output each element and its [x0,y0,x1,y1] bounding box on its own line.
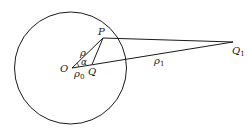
label-rho0-sub: 0 [80,73,84,81]
label-q1: Q1 [232,45,245,58]
label-q: Q [88,66,96,77]
label-alpha: α [81,57,87,67]
circle [15,12,127,124]
label-p: P [97,26,105,37]
label-q1-main: Q [232,45,240,56]
segment-p-q1 [103,38,233,42]
label-rho0: ρ0 [73,68,84,81]
label-rho1: ρ1 [153,55,164,68]
geometry-diagram: O P Q ρ α ρ0 ρ1 Q1 [0,0,252,134]
label-o: O [60,63,68,74]
angle-alpha-arc [77,63,79,67]
segment-p-q [92,38,103,65]
label-rho1-sub: 1 [160,60,164,68]
label-q1-sub: 1 [240,50,244,58]
